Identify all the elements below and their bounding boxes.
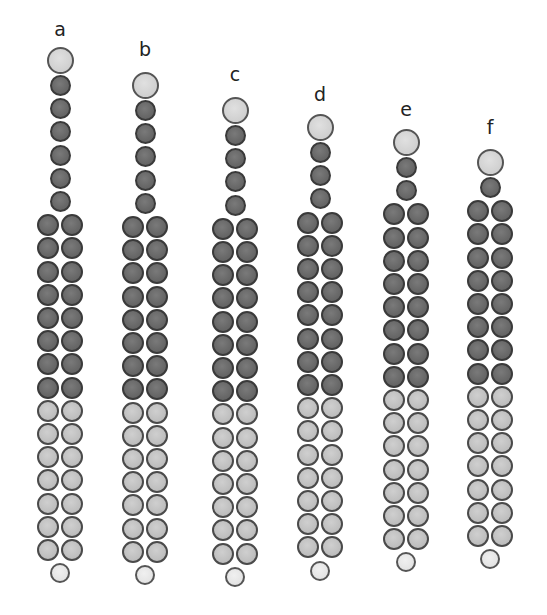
dark-pair-bead-right: [491, 339, 513, 361]
dark-pair-bead-right: [146, 332, 168, 354]
dark-pair-bead-right: [61, 284, 83, 306]
top-bead: [307, 114, 334, 141]
light-pair-bead-left: [383, 505, 405, 527]
dark-pair-bead-right: [236, 380, 258, 402]
dark-pair-bead-left: [122, 286, 144, 308]
light-pair-bead-left: [383, 528, 405, 550]
light-pair-bead-right: [491, 432, 513, 454]
light-pair-bead-left: [467, 525, 489, 547]
dark-pair-bead-right: [321, 212, 343, 234]
light-pair-bead-left: [212, 427, 234, 449]
dark-pair-bead-left: [383, 250, 405, 272]
light-pair-bead-left: [212, 450, 234, 472]
light-pair-bead-left: [297, 536, 319, 558]
light-pair-bead-left: [297, 420, 319, 442]
dark-pair-bead-left: [467, 200, 489, 222]
dark-pair-bead-left: [122, 216, 144, 238]
dark-pair-bead-left: [37, 307, 59, 329]
light-pair-bead-left: [297, 490, 319, 512]
light-pair-bead-left: [467, 409, 489, 431]
light-pair-bead-left: [37, 446, 59, 468]
dark-pair-bead-right: [61, 237, 83, 259]
light-pair-bead-right: [236, 450, 258, 472]
dark-pair-bead-left: [467, 339, 489, 361]
dark-pair-bead-right: [491, 223, 513, 245]
light-pair-bead-left: [122, 518, 144, 540]
dark-single-bead: [50, 98, 71, 119]
light-pair-bead-right: [236, 519, 258, 541]
top-bead: [132, 72, 159, 99]
column-label: d: [300, 83, 340, 105]
dark-pair-bead-right: [146, 262, 168, 284]
bottom-bead: [480, 549, 500, 569]
dark-single-bead: [135, 146, 156, 167]
light-pair-bead-left: [383, 389, 405, 411]
dark-pair-bead-right: [321, 304, 343, 326]
light-pair-bead-right: [236, 403, 258, 425]
light-pair-bead-left: [467, 386, 489, 408]
dark-single-bead: [310, 142, 331, 163]
dark-pair-bead-left: [212, 241, 234, 263]
dark-single-bead: [135, 170, 156, 191]
dark-pair-bead-left: [37, 330, 59, 352]
light-pair-bead-right: [236, 427, 258, 449]
dark-pair-bead-left: [212, 264, 234, 286]
dark-pair-bead-left: [467, 293, 489, 315]
light-pair-bead-left: [212, 519, 234, 541]
dark-pair-bead-right: [321, 374, 343, 396]
dark-single-bead: [50, 191, 71, 212]
dark-pair-bead-left: [37, 353, 59, 375]
light-pair-bead-left: [297, 444, 319, 466]
light-pair-bead-right: [321, 536, 343, 558]
column-label: a: [40, 18, 80, 40]
bottom-bead: [396, 552, 416, 572]
light-pair-bead-left: [122, 541, 144, 563]
dark-pair-bead-right: [146, 216, 168, 238]
light-pair-bead-right: [491, 479, 513, 501]
dark-pair-bead-left: [383, 319, 405, 341]
light-pair-bead-right: [491, 455, 513, 477]
dark-pair-bead-right: [407, 250, 429, 272]
light-pair-bead-right: [407, 389, 429, 411]
dark-pair-bead-left: [122, 355, 144, 377]
dark-pair-bead-right: [146, 355, 168, 377]
dark-single-bead: [225, 171, 246, 192]
dark-pair-bead-left: [37, 214, 59, 236]
light-pair-bead-left: [37, 539, 59, 561]
light-pair-bead-left: [297, 513, 319, 535]
dark-pair-bead-left: [297, 304, 319, 326]
light-pair-bead-right: [321, 420, 343, 442]
dark-pair-bead-right: [146, 286, 168, 308]
dark-pair-bead-right: [146, 239, 168, 261]
dark-single-bead: [225, 148, 246, 169]
top-bead: [477, 149, 504, 176]
light-pair-bead-left: [122, 448, 144, 470]
dark-single-bead: [310, 165, 331, 186]
light-pair-bead-right: [321, 397, 343, 419]
light-pair-bead-right: [407, 459, 429, 481]
light-pair-bead-right: [321, 444, 343, 466]
light-pair-bead-left: [212, 403, 234, 425]
light-pair-bead-left: [122, 494, 144, 516]
light-pair-bead-left: [212, 473, 234, 495]
light-pair-bead-left: [383, 459, 405, 481]
dark-pair-bead-right: [236, 241, 258, 263]
light-pair-bead-left: [122, 402, 144, 424]
dark-pair-bead-right: [146, 309, 168, 331]
light-pair-bead-right: [61, 446, 83, 468]
dark-pair-bead-left: [37, 284, 59, 306]
dark-single-bead: [50, 75, 71, 96]
light-pair-bead-right: [321, 490, 343, 512]
dark-pair-bead-left: [122, 332, 144, 354]
dark-pair-bead-right: [321, 235, 343, 257]
bead-chain-diagram: abcdef: [0, 0, 547, 615]
dark-pair-bead-right: [491, 363, 513, 385]
light-pair-bead-left: [122, 471, 144, 493]
light-pair-bead-left: [297, 467, 319, 489]
dark-pair-bead-right: [61, 261, 83, 283]
dark-pair-bead-left: [212, 311, 234, 333]
bottom-bead: [225, 567, 245, 587]
dark-pair-bead-left: [212, 334, 234, 356]
light-pair-bead-right: [61, 516, 83, 538]
dark-pair-bead-right: [61, 307, 83, 329]
